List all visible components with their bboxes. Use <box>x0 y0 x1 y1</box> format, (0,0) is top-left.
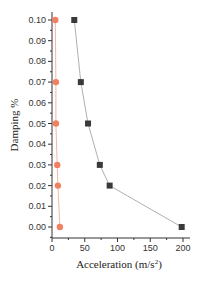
y-axis-title: Damping % <box>8 99 20 152</box>
x-tick-label: 100 <box>110 243 125 253</box>
data-point-square <box>71 17 77 23</box>
data-point-square <box>97 162 103 168</box>
y-tick-label: 0.08 <box>28 56 46 66</box>
x-tick-label: 150 <box>143 243 158 253</box>
data-point-circle <box>53 79 59 85</box>
data-point-square <box>85 121 91 127</box>
data-point-circle <box>55 182 61 188</box>
data-point-square <box>78 79 84 85</box>
data-point-circle <box>52 17 58 23</box>
x-tick-label: 0 <box>49 243 54 253</box>
y-tick-label: 0.03 <box>28 160 46 170</box>
data-point-square <box>107 183 113 189</box>
y-tick-label: 0.05 <box>28 119 46 129</box>
y-tick-label: 0.00 <box>28 222 46 232</box>
y-tick-label: 0.04 <box>28 139 46 149</box>
x-tick-label: 50 <box>80 243 90 253</box>
x-tick-label: 200 <box>175 243 190 253</box>
x-axis-title-end: ) <box>158 258 162 271</box>
series-black-squares <box>71 17 184 230</box>
axes: 0.000.010.020.030.040.050.060.070.080.09… <box>28 12 190 253</box>
data-point-square <box>179 224 185 230</box>
y-tick-label: 0.09 <box>28 36 46 46</box>
data-point-circle <box>53 120 59 126</box>
data-point-circle <box>54 162 60 168</box>
series-layer <box>52 17 185 230</box>
y-tick-label: 0.02 <box>28 181 46 191</box>
x-axis-title: Acceleration (m/s2) <box>76 258 162 271</box>
series-orange-circles <box>52 17 63 230</box>
x-axis-title-main: Acceleration (m/s <box>76 258 155 271</box>
y-tick-label: 0.01 <box>28 201 46 211</box>
data-point-circle <box>57 224 63 230</box>
y-tick-label: 0.10 <box>28 15 46 25</box>
y-tick-label: 0.07 <box>28 77 46 87</box>
y-tick-label: 0.06 <box>28 98 46 108</box>
chart: 0.000.010.020.030.040.050.060.070.080.09… <box>0 0 201 286</box>
